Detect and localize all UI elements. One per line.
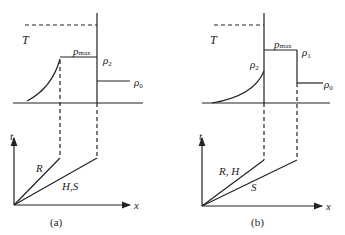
HS-characteristic — [14, 158, 97, 205]
pmax-label: pmax — [273, 38, 292, 50]
rho2-label: ρ2 — [249, 58, 259, 72]
pmax-label: pmax — [72, 45, 91, 57]
rho0-label: ρ0 — [323, 78, 333, 92]
panel-a-profile — [13, 13, 143, 158]
x-axis-label: x — [133, 199, 139, 211]
panel-a: T pmax ρ2 ρ0 t x R H,S (a) — [10, 13, 143, 229]
S-characteristic — [202, 160, 297, 206]
RH-label: R, H — [218, 165, 240, 177]
R-label: R — [35, 162, 43, 174]
HS-label: H,S — [61, 180, 79, 192]
panel-b: T pmax ρ2 ρ1 ρ0 t x R, H S (b) — [199, 13, 333, 229]
rho1-label: ρ1 — [301, 46, 311, 60]
panel-b-profile — [202, 13, 330, 160]
rho2-label: ρ2 — [102, 54, 112, 68]
rarefaction-curve — [27, 59, 60, 101]
x-axis-label: x — [325, 200, 331, 212]
caption-b: (b) — [251, 216, 264, 229]
rarefaction-curve — [212, 71, 264, 103]
T-label: T — [210, 33, 218, 47]
S-label: S — [251, 181, 257, 193]
T-label: T — [22, 33, 30, 47]
panel-a-xt — [14, 138, 130, 205]
shock-wave-diagram: T pmax ρ2 ρ0 t x R H,S (a) T pmax — [0, 0, 345, 235]
caption-a: (a) — [50, 216, 63, 229]
rho0-label: ρ0 — [133, 76, 143, 90]
